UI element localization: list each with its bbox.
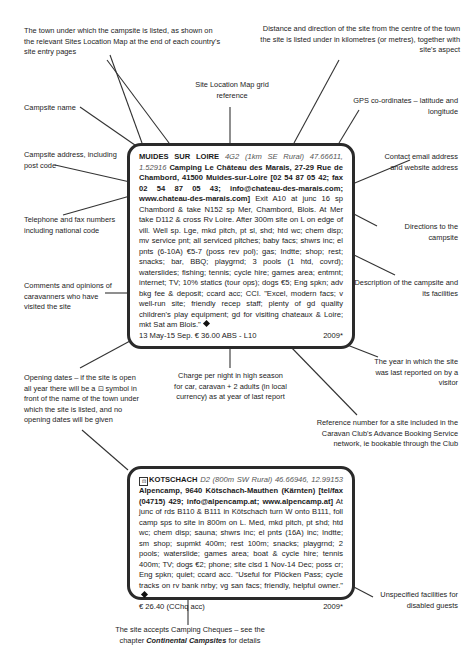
entry-town: MUIDES SUR LOIRE [139, 152, 219, 161]
callout-distance: Distance and direction of the site from … [255, 24, 460, 56]
open-all-year-icon: ⊡ [139, 477, 148, 486]
entry-town: KOTSCHACH [149, 475, 198, 484]
entry-gps: 46.66946, 12.99153 [275, 475, 343, 484]
callout-disabled: Unspecified facilities for disabled gues… [375, 590, 458, 611]
cheques-suffix: for details [228, 636, 260, 645]
entry-muides: MUIDES SUR LOIRE 4G2 (1km SE Rural) 47.6… [127, 143, 355, 349]
callout-grid-ref: Site Location Map grid reference [182, 80, 282, 101]
callout-directions: Directions to the campsite [378, 222, 458, 243]
entry-description: Well sp. Lge, mkd pitch, pt sl, shd; htd… [139, 226, 343, 298]
entry-dates-price: 13 May-15 Sep. € 36.00 ABS - L10 [139, 331, 256, 342]
cheques-chapter: Continental Campsites [146, 636, 226, 645]
disabled-facilities-icon [141, 591, 148, 598]
callout-year: The year in which the site was last repo… [368, 357, 458, 389]
entry-grid: D2 [200, 475, 210, 484]
callout-name: Campsite name [24, 103, 104, 114]
entry-name-address: Alpencamp, 9640 Kötschach-Mauthen (Kärnt… [139, 486, 315, 495]
callout-gps: GPS co-ordinates – latitude and longitud… [340, 96, 458, 117]
entry-year: 2009* [323, 331, 343, 342]
callout-charge: Charge per night in high season for car,… [173, 371, 288, 403]
callout-town: The town under which the campsite is lis… [24, 26, 224, 58]
disabled-facilities-icon [203, 320, 210, 327]
entry-year: 2009* [323, 602, 343, 613]
callout-contact: Contact email address and website addres… [378, 152, 458, 173]
callout-address: Campsite address, including post code [24, 150, 124, 171]
entry-price-cheques: € 26.40 (CChq acc) [139, 602, 205, 613]
callout-phone: Telephone and fax numbers including nati… [24, 215, 124, 236]
callout-cheques: The site accepts Camping Cheques – see t… [110, 625, 270, 646]
callout-opening: Opening dates – if the site is open all … [24, 373, 142, 426]
callout-description: Description of the campsite and its faci… [350, 278, 458, 299]
entry-kotschach: ⊡KOTSCHACH D2 (800m SW Rural) 46.66946, … [127, 466, 355, 600]
callout-abs: Reference number for a site included in … [312, 418, 458, 450]
entry-distance: (800m SW Rural) [213, 475, 273, 484]
entry-grid: 4G2 [225, 152, 239, 161]
entry-distance: (1km SE Rural) [245, 152, 304, 161]
callout-comments: Comments and opinions of caravanners who… [24, 281, 120, 313]
